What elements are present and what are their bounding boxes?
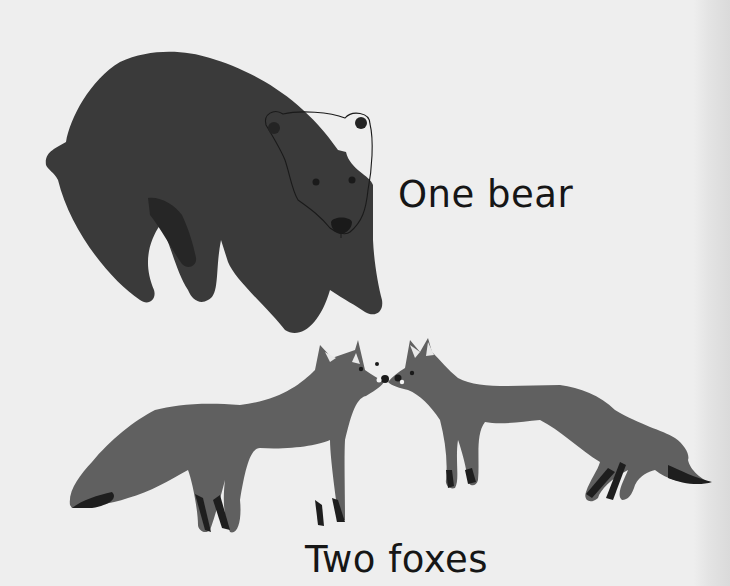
caption-one-bear: One bear <box>398 173 573 216</box>
caption-two-foxes: Two foxes <box>305 538 488 581</box>
left-fox-icon <box>70 340 389 532</box>
book-page: One bear Two foxes <box>0 0 730 586</box>
right-fox-icon <box>388 338 712 501</box>
two-foxes-illustration <box>0 0 730 586</box>
